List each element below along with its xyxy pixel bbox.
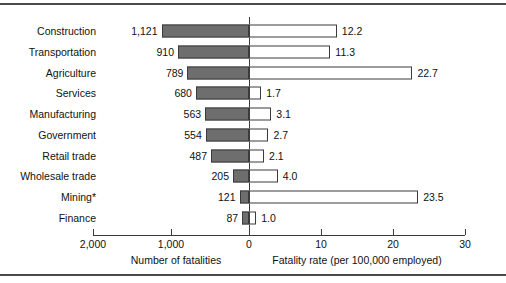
- fatalities-tick-label: 2,000: [80, 238, 106, 250]
- fatality-rate-tick: [465, 229, 466, 235]
- chart-row: Services6801.7: [0, 83, 506, 104]
- fatalities-bar: [187, 66, 249, 79]
- fatalities-value-label: 205: [173, 170, 229, 182]
- fatalities-axis-title: Number of fatalities: [131, 254, 221, 266]
- fatality-rate-value-label: 11.3: [335, 46, 355, 58]
- chart-row: Transportation91011.3: [0, 42, 506, 63]
- fatality-rate-value-label: 2.1: [269, 150, 284, 162]
- chart-row: Mining*12123.5: [0, 187, 506, 208]
- fatalities-tick: [93, 229, 94, 235]
- fatality-rate-value-label: 3.1: [276, 108, 291, 120]
- fatality-rate-bar: [249, 87, 261, 100]
- fatality-rate-bar: [249, 170, 278, 183]
- fatalities-value-label: 680: [136, 87, 192, 99]
- fatality-rate-value-label: 23.5: [423, 191, 443, 203]
- fatalities-value-label: 789: [127, 67, 183, 79]
- fatality-rate-tick: [393, 229, 394, 235]
- fatalities-value-label: 87: [182, 212, 238, 224]
- fatality-rate-axis-line: [249, 235, 465, 236]
- fatalities-bar: [242, 211, 249, 224]
- fatalities-value-label: 910: [118, 46, 174, 58]
- fatality-rate-tick-label: 20: [387, 238, 399, 250]
- category-label: Retail trade: [0, 150, 96, 162]
- fatality-rate-bar: [249, 108, 271, 121]
- fatalities-value-label: 563: [145, 108, 201, 120]
- fatality-rate-value-label: 22.7: [417, 67, 437, 79]
- fatality-rate-tick-label: 10: [315, 238, 327, 250]
- fatality-rate-bar: [249, 46, 330, 59]
- fatality-rate-axis-title: Fatality rate (per 100,000 employed): [272, 254, 441, 266]
- fatalities-bar: [196, 87, 249, 100]
- category-label: Finance: [0, 212, 96, 224]
- chart-row: Retail trade4872.1: [0, 145, 506, 166]
- chart-plot-area: Construction1,12112.2Transportation91011…: [0, 0, 506, 283]
- fatality-rate-bar: [249, 211, 256, 224]
- fatalities-tick-label: 0: [246, 238, 252, 250]
- category-label: Wholesale trade: [0, 170, 96, 182]
- fatality-rate-bar: [249, 190, 418, 203]
- chart-row: Government5542.7: [0, 125, 506, 146]
- fatalities-bar: [162, 25, 249, 38]
- fatality-rate-value-label: 4.0: [283, 170, 298, 182]
- category-label: Transportation: [0, 46, 96, 58]
- chart-row: Wholesale trade2054.0: [0, 166, 506, 187]
- fatalities-axis-line: [93, 235, 250, 236]
- fatalities-tick: [249, 229, 250, 235]
- fatality-rate-bar: [249, 25, 337, 38]
- category-label: Manufacturing: [0, 108, 96, 120]
- fatality-rate-bar: [249, 149, 264, 162]
- fatality-rate-bar: [249, 66, 412, 79]
- category-label: Services: [0, 87, 96, 99]
- chart-row: Agriculture78922.7: [0, 62, 506, 83]
- fatalities-bar: [233, 170, 249, 183]
- fatalities-bar: [178, 46, 249, 59]
- fatalities-value-label: 121: [180, 191, 236, 203]
- fatality-rate-value-label: 1.0: [261, 212, 276, 224]
- chart-row: Manufacturing5633.1: [0, 104, 506, 125]
- fatalities-bar: [240, 190, 249, 203]
- figure-container: Construction1,12112.2Transportation91011…: [0, 0, 506, 283]
- category-label: Government: [0, 129, 96, 141]
- chart-row: Construction1,12112.2: [0, 21, 506, 42]
- fatality-rate-value-label: 12.2: [342, 25, 362, 37]
- fatalities-bar: [206, 128, 249, 141]
- fatality-rate-bar: [249, 128, 268, 141]
- fatality-rate-tick-label: 30: [459, 238, 471, 250]
- category-label: Mining*: [0, 191, 96, 203]
- fatality-rate-value-label: 1.7: [266, 87, 281, 99]
- fatalities-tick: [171, 229, 172, 235]
- fatalities-bar: [211, 149, 249, 162]
- fatalities-value-label: 487: [151, 150, 207, 162]
- fatalities-value-label: 554: [146, 129, 202, 141]
- fatalities-bar: [205, 108, 249, 121]
- fatality-rate-tick: [321, 229, 322, 235]
- category-label: Agriculture: [0, 67, 96, 79]
- fatalities-value-label: 1,121: [102, 25, 158, 37]
- fatality-rate-value-label: 2.7: [273, 129, 288, 141]
- chart-row: Finance871.0: [0, 207, 506, 228]
- category-label: Construction: [0, 25, 96, 37]
- fatalities-tick-label: 1,000: [158, 238, 184, 250]
